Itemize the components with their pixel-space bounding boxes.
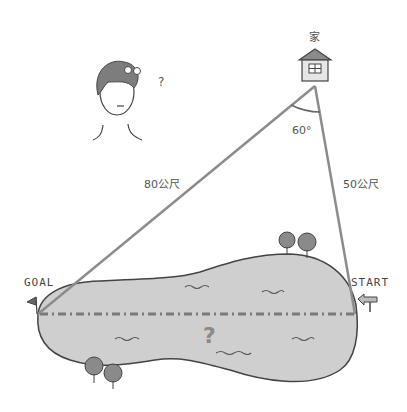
house-icon bbox=[299, 49, 331, 81]
angle-label: 60° bbox=[292, 124, 312, 137]
boy-thinking-icon bbox=[93, 61, 142, 140]
side-short-label: 50公尺 bbox=[343, 175, 379, 191]
goal-label: GOAL bbox=[24, 276, 55, 289]
start-arrow-icon bbox=[358, 294, 377, 312]
goal-flag-icon bbox=[27, 297, 37, 314]
side-long-label: 80公尺 bbox=[144, 175, 180, 191]
diagram-canvas: ? ? bbox=[0, 0, 407, 412]
thinking-question-mark: ? bbox=[158, 75, 164, 89]
house-label: 家 bbox=[309, 28, 320, 44]
unknown-distance-mark: ? bbox=[203, 323, 216, 348]
start-label: START bbox=[351, 276, 389, 289]
angle-arc bbox=[291, 105, 320, 112]
